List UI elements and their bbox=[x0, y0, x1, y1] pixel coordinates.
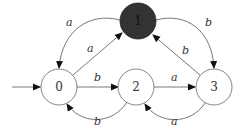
edge-label-3-1: b bbox=[182, 44, 189, 57]
state-label-3: 3 bbox=[210, 80, 218, 94]
state-label-2: 2 bbox=[132, 80, 140, 94]
edge-label-1-0: a bbox=[66, 16, 73, 29]
edge-label-0-1: a bbox=[87, 42, 94, 55]
edge-0-to-1 bbox=[73, 33, 122, 75]
automaton-diagram: a a b b b b a a 0 1 2 3 bbox=[0, 0, 242, 130]
edge-label-1-3: b bbox=[205, 16, 212, 29]
state-node-0: 0 bbox=[41, 69, 77, 105]
state-node-3: 3 bbox=[196, 69, 232, 105]
diagram-svg: a a b b b b a a 0 1 2 3 bbox=[0, 0, 242, 130]
edge-label-0-2: b bbox=[94, 71, 101, 84]
state-label-0: 0 bbox=[55, 80, 63, 94]
edge-label-3-2: a bbox=[171, 115, 178, 128]
state-node-2: 2 bbox=[118, 69, 154, 105]
edge-label-2-3: a bbox=[171, 71, 178, 84]
edge-label-2-0: b bbox=[94, 115, 101, 128]
edge-3-to-1 bbox=[153, 35, 200, 75]
state-label-1: 1 bbox=[134, 14, 142, 28]
state-node-1: 1 bbox=[120, 3, 156, 39]
